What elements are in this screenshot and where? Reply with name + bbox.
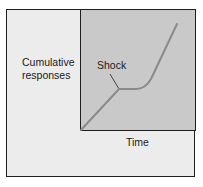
x-axis-label: Time — [126, 136, 149, 148]
shock-annotation-label: Shock — [97, 59, 126, 71]
y-axis-label-line2: responses — [22, 69, 75, 82]
y-axis-label: Cumulative responses — [22, 56, 75, 82]
y-axis-label-line1: Cumulative — [22, 56, 75, 69]
